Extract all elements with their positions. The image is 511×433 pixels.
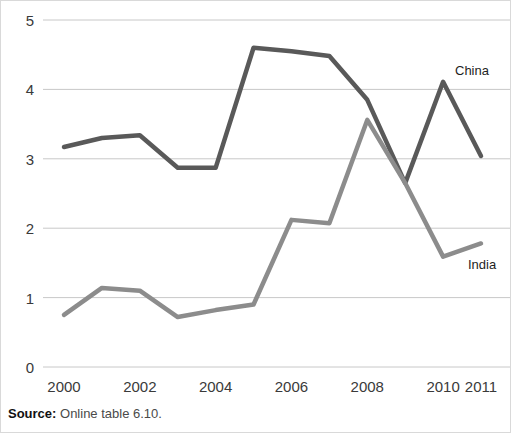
x-tick-label: 2006 xyxy=(261,379,321,394)
gridlines xyxy=(43,20,511,367)
x-tick-label: 2008 xyxy=(337,379,397,394)
series-line-china xyxy=(64,48,481,183)
y-tick-label: 1 xyxy=(12,291,34,306)
x-tick-label: 2011 xyxy=(451,379,511,394)
source-label: Source: xyxy=(8,406,56,421)
figure-border-left xyxy=(0,0,1,433)
y-tick-label: 5 xyxy=(12,13,34,28)
chart-figure: 012345 2000200220042006200820102011 Chin… xyxy=(0,0,511,433)
y-tick-label: 3 xyxy=(12,152,34,167)
y-tick-label: 4 xyxy=(12,82,34,97)
x-tick-label: 2002 xyxy=(110,379,170,394)
line-chart-svg xyxy=(0,0,511,400)
y-tick-label: 2 xyxy=(12,221,34,236)
figure-border-top xyxy=(0,0,511,1)
series-label-india: India xyxy=(468,258,496,271)
plot-area: 012345 2000200220042006200820102011 Chin… xyxy=(0,0,511,400)
source-text: Online table 6.10. xyxy=(56,406,162,421)
series-lines xyxy=(64,48,481,317)
x-tick-label: 2004 xyxy=(186,379,246,394)
series-label-china: China xyxy=(455,64,489,77)
x-tick-label: 2000 xyxy=(34,379,94,394)
source-note: Source: Online table 6.10. xyxy=(8,406,162,421)
y-tick-label: 0 xyxy=(12,360,34,375)
